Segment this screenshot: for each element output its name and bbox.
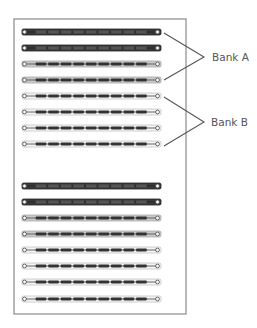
slot-contact: [111, 79, 122, 82]
slot-contact: [111, 111, 122, 114]
slot-contact: [123, 111, 134, 114]
slot-contact: [98, 127, 109, 130]
memory-slot: [22, 231, 161, 237]
slot-contact: [36, 281, 47, 284]
slot-contact: [48, 233, 59, 236]
slot-contact: [36, 249, 47, 252]
slot-contact: [111, 233, 122, 236]
slot-contact: [123, 79, 134, 82]
slot-contact: [123, 143, 134, 146]
slot-contact: [73, 185, 84, 188]
memory-slot: [22, 263, 161, 269]
slot-contact: [73, 298, 84, 301]
slot-contact: [86, 143, 97, 146]
slot-contact: [36, 47, 47, 50]
slot-contact: [86, 298, 97, 301]
memory-slot: [22, 247, 161, 253]
slot-contact: [136, 185, 147, 188]
slot-contact: [136, 298, 147, 301]
memory-slot: [22, 141, 161, 147]
slot-contact: [61, 265, 72, 268]
slot-contact: [86, 217, 97, 220]
slot-contact: [36, 111, 47, 114]
slot-contact: [61, 281, 72, 284]
slot-contact: [86, 265, 97, 268]
slot-contact: [111, 249, 122, 252]
slot-contact: [73, 47, 84, 50]
slot-contact: [136, 31, 147, 34]
slot-latch-left-icon: [23, 297, 27, 301]
slot-contact: [36, 185, 47, 188]
slot-contact: [123, 201, 134, 204]
slot-latch-right-icon: [156, 297, 160, 301]
slot-contact: [86, 233, 97, 236]
slot-contact: [111, 217, 122, 220]
slot-contact: [136, 201, 147, 204]
slot-contact: [123, 265, 134, 268]
slot-contact: [73, 233, 84, 236]
slot-latch-left-icon: [23, 280, 27, 284]
slot-contact: [48, 143, 59, 146]
slot-latch-right-icon: [156, 78, 160, 82]
slot-contact: [98, 217, 109, 220]
slot-contact: [48, 31, 59, 34]
slot-contact: [48, 281, 59, 284]
slot-contact: [61, 233, 72, 236]
slot-contact: [111, 127, 122, 130]
slot-contact: [36, 217, 47, 220]
slot-contact: [61, 111, 72, 114]
slot-latch-left-icon: [23, 46, 27, 50]
slot-contact: [73, 111, 84, 114]
slot-contact: [111, 201, 122, 204]
slot-latch-right-icon: [156, 94, 160, 98]
slot-contact: [111, 63, 122, 66]
slot-contact: [98, 233, 109, 236]
slot-contact: [36, 265, 47, 268]
bank-b-label: Bank B: [211, 116, 248, 128]
slot-contact: [86, 111, 97, 114]
slot-contact: [36, 31, 47, 34]
slot-contact: [98, 143, 109, 146]
slot-contact: [123, 127, 134, 130]
slot-latch-left-icon: [23, 94, 27, 98]
slot-contact: [48, 111, 59, 114]
slot-contact: [61, 185, 72, 188]
slot-contact: [98, 111, 109, 114]
slot-contact: [61, 201, 72, 204]
slot-contact: [98, 185, 109, 188]
slot-contact: [123, 47, 134, 50]
slot-contact: [73, 265, 84, 268]
slot-contact: [136, 233, 147, 236]
slot-contact: [86, 127, 97, 130]
slot-contact: [48, 47, 59, 50]
slot-contact: [136, 111, 147, 114]
slot-contact: [61, 79, 72, 82]
slot-contact: [86, 281, 97, 284]
slot-contact: [123, 95, 134, 98]
slot-contact: [123, 298, 134, 301]
slot-contact: [111, 143, 122, 146]
slot-latch-right-icon: [156, 264, 160, 268]
slot-latch-left-icon: [23, 184, 27, 188]
slot-contact: [61, 63, 72, 66]
slot-contact: [36, 95, 47, 98]
slot-contact: [61, 31, 72, 34]
slot-contact: [98, 265, 109, 268]
slot-contact: [61, 298, 72, 301]
slot-contact: [73, 249, 84, 252]
memory-slot: [22, 215, 161, 221]
slot-contact: [48, 249, 59, 252]
slot-contact: [86, 31, 97, 34]
slot-contact: [123, 63, 134, 66]
slot-latch-right-icon: [156, 216, 160, 220]
slot-contact: [123, 185, 134, 188]
memory-slot: [22, 279, 161, 285]
slot-contact: [61, 143, 72, 146]
slot-contact: [61, 249, 72, 252]
slot-contact: [136, 79, 147, 82]
slot-latch-left-icon: [23, 62, 27, 66]
memory-bank-diagram: Bank A Bank B: [0, 0, 257, 328]
slot-latch-right-icon: [156, 280, 160, 284]
memory-slot: [22, 29, 161, 35]
memory-slot: [22, 93, 161, 99]
